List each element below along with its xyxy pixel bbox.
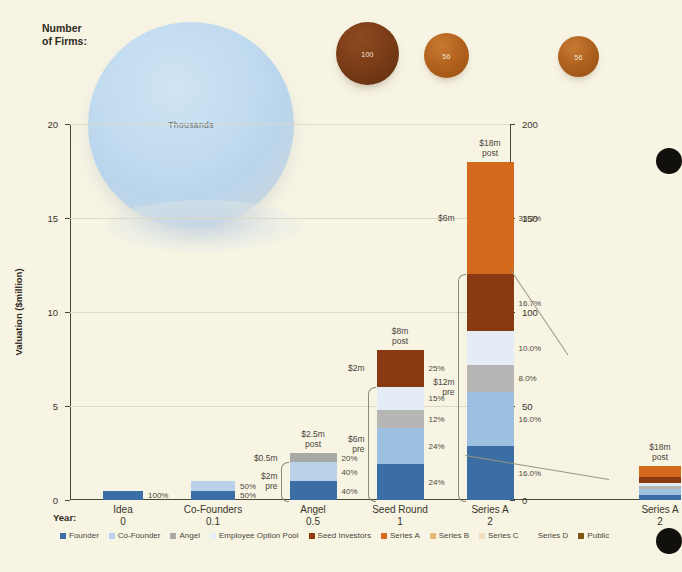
bar-segment-series-a[interactable]: 33.3%	[467, 162, 514, 275]
chart-plot-area: Valuation ($million) 05101520 0501001502…	[70, 124, 510, 500]
post-money-label: $2.5mpost	[301, 429, 325, 449]
legend-item[interactable]: Series B	[430, 531, 469, 540]
bar-segment-founder[interactable]: 40%	[290, 481, 337, 500]
bar-segment-seed-investors[interactable]: 16.7%	[467, 274, 514, 330]
bar-segment-founder[interactable]: 16.0%	[467, 446, 514, 500]
bubble-series-a-count: 56	[424, 52, 469, 59]
legend-swatch-icon	[60, 533, 66, 539]
x-year-label: 0	[120, 516, 126, 527]
pre-money-amount: $2m	[242, 471, 278, 481]
bar-segment-founder[interactable]: 100%	[103, 491, 143, 500]
bar-segment-employee-option-pool[interactable]: 10.0%	[467, 331, 514, 365]
legend-swatch-icon	[529, 533, 535, 539]
legend-item[interactable]: Series D	[529, 531, 569, 540]
bar-segment-employee-option-pool[interactable]: 15%	[377, 387, 424, 410]
segment-percent-label: 12%	[429, 414, 445, 423]
legend-item[interactable]: Co-Founder	[109, 531, 161, 540]
x-year-label: 1	[397, 516, 403, 527]
legend-item[interactable]: Series A	[381, 531, 420, 540]
segment-percent-label: 24%	[429, 441, 445, 450]
pre-money-brace	[368, 387, 376, 502]
post-money-amount: $2.5m	[301, 429, 325, 439]
firms-label-line2: of Firms:	[42, 35, 87, 48]
post-money-label: $8mpost	[392, 326, 409, 346]
bar-segment-co-founder[interactable]: 40%	[290, 462, 337, 481]
segment-percent-label: 16.0%	[519, 468, 542, 477]
legend-item[interactable]: Seed Investors	[309, 531, 371, 540]
post-money-label: $18mpost	[479, 138, 500, 158]
legend-item[interactable]: Public	[578, 531, 609, 540]
page-edge-dot-bottom	[656, 528, 682, 554]
y-tick-label-right: 0	[522, 495, 562, 506]
pre-money-label: $6mpre	[329, 434, 365, 454]
segment-percent-label: 16.0%	[519, 414, 542, 423]
x-year-label: 0.1	[206, 516, 220, 527]
bar-segment-founder[interactable]	[639, 495, 681, 500]
x-year-label: 2	[657, 516, 663, 527]
segment-percent-label: 100%	[148, 491, 168, 500]
y-tick-label-left: 5	[18, 401, 58, 412]
legend-label: Series B	[439, 531, 469, 540]
segment-percent-label: 25%	[429, 364, 445, 373]
y-tick-right	[510, 500, 515, 501]
bar-segment-founder[interactable]: 50%	[191, 491, 235, 500]
segment-percent-label: 24%	[429, 477, 445, 486]
gridline	[70, 312, 510, 313]
segment-percent-label: 50%	[240, 491, 256, 500]
legend-label: Series C	[488, 531, 519, 540]
bar-segment-angel[interactable]: 8.0%	[467, 365, 514, 392]
legend-swatch-icon	[109, 533, 115, 539]
legend-swatch-icon	[479, 533, 485, 539]
legend-item[interactable]: Angel	[170, 531, 199, 540]
gridline	[70, 124, 510, 125]
bar-segment-co-founder[interactable]: 24%	[377, 428, 424, 464]
segment-percent-label: 10.0%	[519, 343, 542, 352]
y-tick-label-left: 15	[18, 213, 58, 224]
bar-angel[interactable]: 20%40%40%$2.5mpost	[290, 453, 337, 500]
bar-segment-seed-investors[interactable]: 25%	[377, 350, 424, 388]
legend-item[interactable]: Employee Option Pool	[210, 531, 299, 540]
bubble-seed-round-count: 100	[336, 50, 399, 57]
post-money-word: post	[392, 336, 409, 346]
legend-swatch-icon	[170, 533, 176, 539]
segment-percent-label: 40%	[342, 467, 358, 476]
y-tick-left	[65, 312, 70, 313]
bar-series-a[interactable]: 33.3%16.7%10.0%8.0%16.0%16.0%$18mpost	[467, 162, 514, 500]
y-tick-label-right: 200	[522, 119, 562, 130]
bar-segment-co-founder[interactable]: 50%	[191, 481, 235, 490]
page-edge-dot-top	[656, 148, 682, 174]
bar-co-founders[interactable]: 50%50%	[191, 481, 235, 500]
bar-series-a-right-axis[interactable]: $18mpost	[639, 466, 681, 500]
bar-seed-round[interactable]: 25%15%12%24%24%$8mpost	[377, 350, 424, 500]
gridline	[70, 406, 510, 407]
legend-item[interactable]: Series C	[479, 531, 519, 540]
bar-segment-co-founder[interactable]: 16.0%	[467, 392, 514, 446]
y-tick-label-left: 20	[18, 119, 58, 130]
y-tick-label-left: 0	[18, 495, 58, 506]
post-money-word: post	[649, 452, 670, 462]
bubble-series-a-right-firms: 56	[558, 36, 599, 77]
legend-label: Co-Founder	[118, 531, 161, 540]
number-of-firms-label: Number of Firms:	[42, 22, 87, 48]
bar-segment-angel[interactable]: 20%	[290, 453, 337, 462]
y-tick-label-left: 10	[18, 307, 58, 318]
bar-segment-founder[interactable]: 24%	[377, 464, 424, 500]
y-tick-left	[65, 500, 70, 501]
legend-label: Seed Investors	[318, 531, 371, 540]
x-year-label: 2	[487, 516, 493, 527]
pre-money-word: pre	[329, 444, 365, 454]
x-category-label: Series A	[471, 504, 508, 515]
new-money-amount-label: $2m	[329, 363, 365, 373]
y-tick-right	[510, 124, 515, 125]
legend-label: Angel	[179, 531, 199, 540]
bar-idea[interactable]: 100%	[103, 491, 143, 500]
segment-percent-label: 20%	[342, 453, 358, 462]
y-tick-label-right: 50	[522, 401, 562, 412]
x-category-label: Idea	[113, 504, 132, 515]
legend-item[interactable]: Founder	[60, 531, 99, 540]
x-category-label: Series A	[641, 504, 678, 515]
bar-segment-angel[interactable]: 12%	[377, 410, 424, 428]
post-money-amount: $18m	[479, 138, 500, 148]
pre-money-word: pre	[242, 481, 278, 491]
bar-segment-series-a[interactable]	[639, 466, 681, 477]
